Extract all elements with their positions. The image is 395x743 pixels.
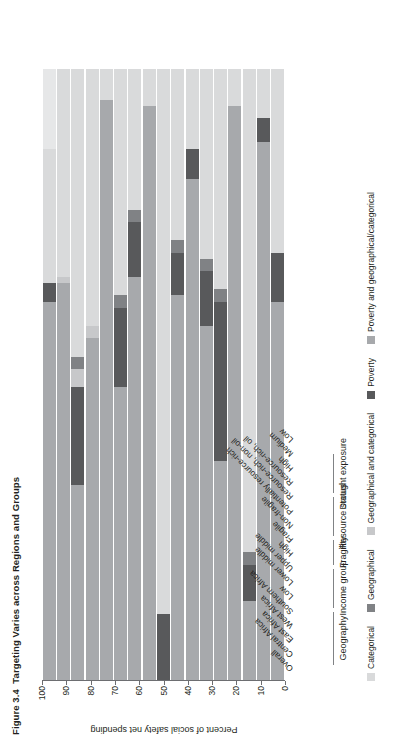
group-bracket-line bbox=[333, 454, 334, 493]
legend-swatch bbox=[367, 673, 375, 681]
axis-tick-label: 70 bbox=[110, 686, 120, 695]
bar-segment bbox=[43, 283, 56, 301]
axis-tick bbox=[115, 681, 116, 685]
y-axis-title: Percent of social safety net spending bbox=[42, 723, 285, 737]
bar-segment bbox=[271, 69, 284, 253]
bar-low bbox=[114, 69, 127, 681]
bar-segment bbox=[128, 210, 141, 222]
legend-swatch bbox=[367, 336, 375, 344]
axis-tick-label: 80 bbox=[86, 686, 96, 695]
axis-tick-label: 0 bbox=[280, 686, 290, 691]
bar-segment bbox=[257, 69, 270, 118]
bar-segment bbox=[114, 308, 127, 388]
bar-segment bbox=[71, 485, 84, 681]
group-bracket-line bbox=[333, 612, 334, 665]
bar-segment bbox=[171, 240, 184, 252]
bar-segment bbox=[57, 69, 70, 277]
legend-swatch bbox=[367, 391, 375, 399]
bar-segment bbox=[114, 69, 127, 295]
bar-segment bbox=[128, 222, 141, 277]
bar-high bbox=[157, 69, 170, 681]
legend-label: Geographical and categorical bbox=[366, 413, 376, 524]
axis-tick-label: 50 bbox=[159, 686, 169, 695]
bar-segment bbox=[171, 295, 184, 681]
bar-potentially-resource-rich bbox=[200, 69, 213, 681]
legend-item: Poverty bbox=[366, 358, 376, 399]
bar-high bbox=[243, 69, 256, 681]
bar-segment bbox=[157, 614, 170, 681]
axis-tick-label: 90 bbox=[61, 686, 71, 695]
legend-item: Categorical bbox=[366, 626, 376, 681]
axis-tick bbox=[91, 681, 92, 685]
bar-segment bbox=[171, 253, 184, 296]
bar-segment bbox=[100, 69, 113, 100]
bar-segment bbox=[43, 69, 56, 149]
y-axis: 0102030405060708090100 bbox=[42, 680, 285, 681]
bar-segment bbox=[214, 461, 227, 681]
bar-segment bbox=[228, 69, 241, 106]
bar-segment bbox=[143, 106, 156, 681]
bar-overall bbox=[43, 69, 56, 681]
axis-tick-label: 20 bbox=[231, 686, 241, 695]
axis-tick bbox=[188, 681, 189, 685]
axis-tick-label: 40 bbox=[183, 686, 193, 695]
axis-tick-label: 100 bbox=[37, 686, 47, 700]
bar-segment bbox=[86, 69, 99, 326]
bar-segment bbox=[71, 357, 84, 369]
bar-segment bbox=[200, 259, 213, 271]
axis-tick bbox=[139, 681, 140, 685]
legend: CategoricalGeographicalGeographical and … bbox=[360, 31, 382, 681]
bar-segment bbox=[114, 295, 127, 307]
bar-segment bbox=[43, 302, 56, 681]
axis-tick bbox=[285, 681, 286, 685]
bar-segment bbox=[186, 69, 199, 149]
bar-east-africa bbox=[71, 69, 84, 681]
axis-tick bbox=[236, 681, 237, 685]
bar-central-africa bbox=[57, 69, 70, 681]
axis-tick bbox=[212, 681, 213, 685]
axis-tick bbox=[66, 681, 67, 685]
bar-segment bbox=[171, 69, 184, 240]
bar-segment bbox=[128, 277, 141, 681]
bar-segment bbox=[228, 106, 241, 681]
bar-segment bbox=[71, 69, 84, 357]
bar-segment bbox=[243, 601, 256, 681]
bar-segment bbox=[100, 100, 113, 681]
legend-item: Geographical bbox=[366, 549, 376, 612]
bar-upper-middle bbox=[143, 69, 156, 681]
legend-label: Poverty bbox=[366, 358, 376, 387]
bar-west-africa bbox=[86, 69, 99, 681]
legend-label: Geographical bbox=[366, 549, 376, 600]
group-bracket-line bbox=[333, 569, 334, 608]
bar-segment bbox=[214, 302, 227, 461]
bar-segment bbox=[214, 69, 227, 289]
bar-segment bbox=[143, 69, 156, 106]
group-label: Geography bbox=[338, 616, 348, 661]
bar-segment bbox=[43, 149, 56, 284]
bar-segment bbox=[186, 149, 199, 180]
axis-tick bbox=[261, 681, 262, 685]
group-label: Income group bbox=[338, 561, 348, 616]
legend-item: Geographical and categorical bbox=[366, 413, 376, 536]
legend-label: Categorical bbox=[366, 626, 376, 669]
bar-segment bbox=[157, 69, 170, 614]
bar-segment bbox=[57, 277, 70, 283]
bar-resource-rich-non-oil bbox=[214, 69, 227, 681]
bar-segment bbox=[200, 271, 213, 326]
bar-segment bbox=[128, 69, 141, 210]
axis-tick-label: 30 bbox=[207, 686, 217, 695]
legend-swatch bbox=[367, 604, 375, 612]
bar-segment bbox=[86, 326, 99, 338]
bar-segment bbox=[57, 283, 70, 681]
figure-title-text: Targeting Varies across Regions and Grou… bbox=[10, 477, 21, 684]
bar-segment bbox=[271, 253, 284, 302]
bar-non-fragile bbox=[186, 69, 199, 681]
bar-segment bbox=[214, 289, 227, 301]
group-bracket-line bbox=[333, 540, 334, 565]
bar-segment bbox=[186, 179, 199, 681]
legend-swatch bbox=[367, 527, 375, 535]
plot-area bbox=[42, 69, 285, 681]
figure-stage: Figure 3.4 Targeting Varies across Regio… bbox=[0, 0, 395, 743]
axis-tick bbox=[42, 681, 43, 685]
axis-tick-label: 10 bbox=[256, 686, 266, 695]
